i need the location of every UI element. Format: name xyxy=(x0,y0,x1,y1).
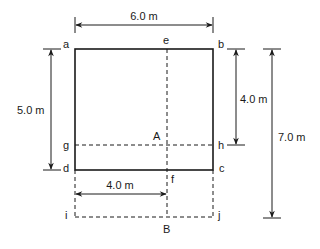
point-label-i: i xyxy=(65,209,67,221)
point-label-a: a xyxy=(63,38,70,50)
point-label-b: b xyxy=(218,38,224,50)
dimension-diagram: 6.0 m 5.0 m 4.0 m 7.0 m 4.0 m a b c d e … xyxy=(0,0,320,249)
point-label-d: d xyxy=(63,162,69,174)
point-label-h: h xyxy=(218,139,224,151)
point-label-j: j xyxy=(217,209,220,221)
dim-label-bottom-width: 4.0 m xyxy=(106,179,134,191)
point-label-g: g xyxy=(63,139,69,151)
dim-label-right-inner-height: 4.0 m xyxy=(240,93,268,105)
dim-label-right-total-height: 7.0 m xyxy=(278,131,306,143)
point-label-c: c xyxy=(219,162,225,174)
point-label-f: f xyxy=(171,173,175,185)
point-label-e: e xyxy=(163,34,169,46)
dim-label-top-width: 6.0 m xyxy=(130,10,158,22)
square-abcd xyxy=(75,49,213,170)
region-label-A: A xyxy=(153,130,161,142)
region-label-B: B xyxy=(163,223,170,235)
dim-label-left-height: 5.0 m xyxy=(17,104,45,116)
